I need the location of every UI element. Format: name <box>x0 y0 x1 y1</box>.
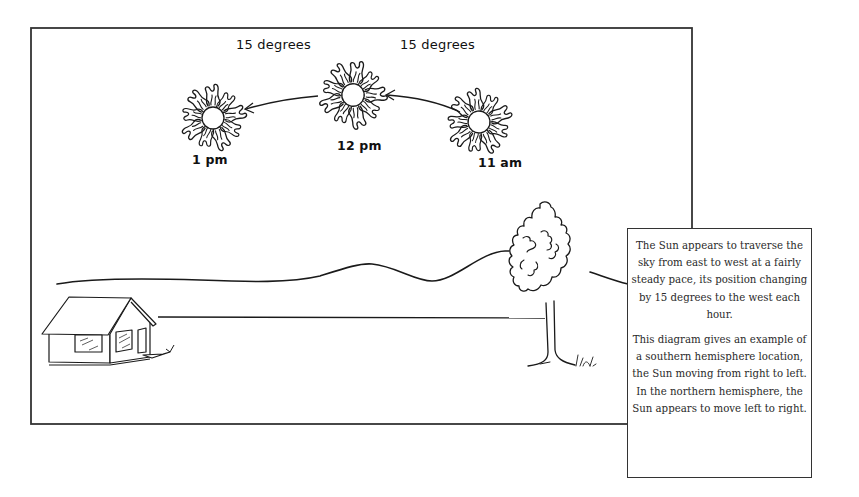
time-label-1pm: 1 pm <box>192 152 228 167</box>
caption-paragraph-2: This diagram gives an example of a south… <box>631 331 808 417</box>
time-label-12pm: 12 pm <box>337 138 382 153</box>
caption-paragraph-1: The Sun appears to traverse the sky from… <box>631 237 808 323</box>
time-label-11am: 11 am <box>478 155 522 170</box>
arrow-label-11am-to-12pm: 15 degrees <box>400 37 475 52</box>
caption-box: The Sun appears to traverse the sky from… <box>627 228 812 478</box>
arrow-label-12pm-to-1pm: 15 degrees <box>236 37 311 52</box>
